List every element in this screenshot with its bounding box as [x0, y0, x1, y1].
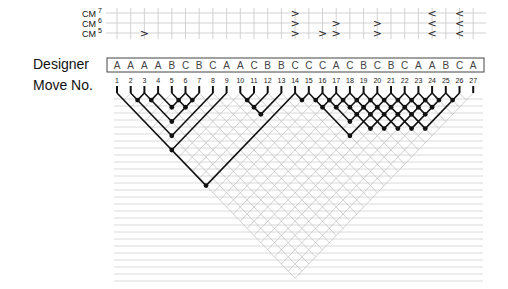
link-node	[149, 98, 154, 103]
designer-cell: A	[237, 60, 244, 71]
designer-cell: B	[442, 60, 449, 71]
link-node	[368, 126, 373, 131]
link-node	[368, 112, 373, 117]
link-line	[412, 93, 446, 129]
move-number: 2	[129, 77, 133, 84]
designer-cell: B	[168, 60, 175, 71]
link-line	[370, 93, 404, 129]
link-node	[395, 112, 400, 117]
move-number: 3	[142, 77, 146, 84]
designer-cell: C	[346, 60, 353, 71]
move-number: 23	[415, 77, 423, 84]
designer-cell: C	[456, 60, 463, 71]
move-number: 11	[250, 77, 257, 84]
link-node	[382, 112, 387, 117]
link-node	[375, 105, 380, 110]
cm-marker: >	[332, 27, 341, 40]
move-number: 13	[278, 77, 286, 84]
linkograph-diagram: >>>>>>>>><<<<<<A1A2A3A4B5C6B7C8A9A10C11B…	[0, 0, 508, 289]
cm-marker: <	[455, 27, 464, 40]
designer-cell: C	[250, 60, 257, 71]
link-node	[354, 112, 359, 117]
move-number: 20	[373, 77, 381, 84]
link-line	[398, 93, 432, 129]
link-node	[169, 119, 174, 124]
designer-cell: A	[223, 60, 230, 71]
link-node	[252, 105, 257, 110]
designer-cell: B	[278, 60, 285, 71]
link-node	[341, 98, 346, 103]
move-number: 5	[170, 77, 174, 84]
link-line	[377, 93, 411, 129]
designer-cell: C	[401, 60, 408, 71]
link-node	[313, 98, 318, 103]
move-number: 17	[332, 77, 340, 84]
link-node	[409, 112, 414, 117]
link-node	[395, 98, 400, 103]
link-node	[402, 105, 407, 110]
cm-marker: >	[373, 27, 382, 40]
link-node	[354, 98, 359, 103]
designer-cell: A	[429, 60, 436, 71]
designer-cell: C	[319, 60, 326, 71]
link-line	[364, 93, 398, 129]
link-node	[382, 98, 387, 103]
link-node	[382, 126, 387, 131]
link-node	[389, 105, 394, 110]
cm-marker: <	[427, 27, 436, 40]
move-number: 27	[469, 77, 477, 84]
link-node	[320, 105, 325, 110]
link-line	[206, 93, 295, 186]
move-number: 6	[184, 77, 188, 84]
designer-cell: A	[470, 60, 477, 71]
link-node	[334, 105, 339, 110]
move-number: 12	[264, 77, 272, 84]
link-line	[350, 93, 384, 129]
lattice-line	[186, 93, 330, 243]
designer-cell: A	[333, 60, 340, 71]
link-node	[348, 119, 353, 124]
link-node	[183, 105, 188, 110]
link-line	[391, 93, 425, 129]
link-line	[425, 93, 459, 129]
link-node	[204, 183, 209, 188]
move-number: 1	[115, 77, 119, 84]
designer-cell: C	[182, 60, 189, 71]
cm-marker: >	[140, 27, 149, 40]
link-line	[117, 93, 206, 186]
move-number: 10	[236, 77, 244, 84]
designer-cell: B	[388, 60, 395, 71]
link-node	[258, 112, 263, 117]
move-number: 24	[428, 77, 436, 84]
link-node	[368, 98, 373, 103]
designer-cell: A	[114, 60, 121, 71]
link-node	[135, 98, 140, 103]
link-node	[450, 98, 455, 103]
link-node	[245, 98, 250, 103]
move-number: 7	[197, 77, 201, 84]
link-node	[409, 98, 414, 103]
link-node	[190, 98, 195, 103]
move-number: 8	[211, 77, 215, 84]
designer-cell: C	[291, 60, 298, 71]
designer-cell: C	[209, 60, 216, 71]
link-node	[437, 98, 442, 103]
move-number: 25	[442, 77, 450, 84]
move-number: 4	[156, 77, 160, 84]
link-node	[395, 126, 400, 131]
link-node	[423, 126, 428, 131]
link-node	[423, 98, 428, 103]
move-number: 16	[319, 77, 327, 84]
move-number: 9	[225, 77, 229, 84]
link-node	[361, 105, 366, 110]
move-number: 19	[360, 77, 368, 84]
move-number: 26	[456, 77, 464, 84]
link-node	[169, 148, 174, 153]
link-node	[169, 105, 174, 110]
designer-cell: B	[196, 60, 203, 71]
move-number: 15	[305, 77, 313, 84]
move-number: 22	[401, 77, 409, 84]
designer-cell: C	[374, 60, 381, 71]
cm-marker: >	[290, 27, 299, 40]
link-node	[409, 126, 414, 131]
